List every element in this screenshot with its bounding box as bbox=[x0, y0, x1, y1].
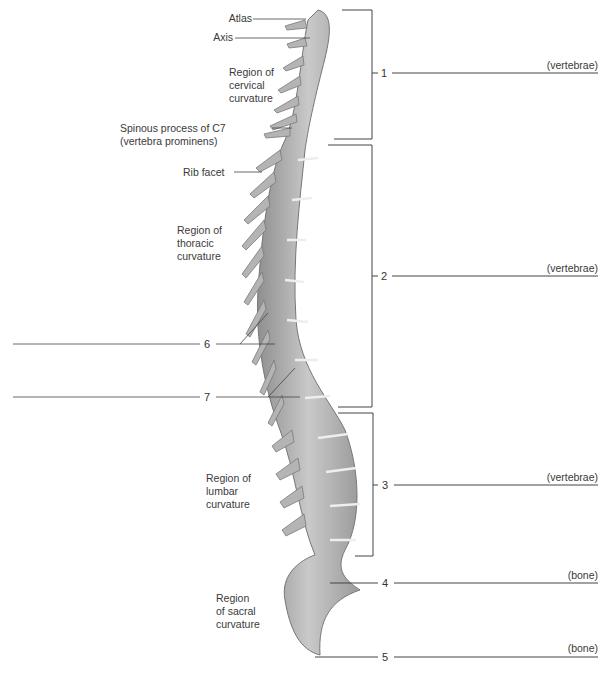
blank-hint-5: (bone) bbox=[500, 642, 598, 654]
label-c7-spinous-process: Spinous process of C7 (vertebra prominen… bbox=[120, 122, 226, 148]
label-cervical-region: Region of cervical curvature bbox=[229, 66, 274, 105]
blank-hint-2: (vertebrae) bbox=[500, 262, 598, 274]
label-axis: Axis bbox=[200, 31, 233, 44]
blank-hint-1: (vertebrae) bbox=[500, 59, 598, 71]
label-sacral-region: Region of sacral curvature bbox=[216, 592, 260, 631]
blank-number-6: 6 bbox=[201, 338, 213, 350]
blank-number-4: 4 bbox=[379, 577, 391, 589]
blank-hint-4: (bone) bbox=[500, 569, 598, 581]
blank-number-3: 3 bbox=[379, 479, 391, 491]
label-lumbar-region: Region of lumbar curvature bbox=[206, 472, 251, 511]
label-atlas: Atlas bbox=[200, 12, 252, 25]
blank-number-7: 7 bbox=[201, 391, 213, 403]
label-rib-facet: Rib facet bbox=[183, 166, 224, 179]
label-thoracic-region: Region of thoracic curvature bbox=[177, 224, 222, 263]
blank-number-1: 1 bbox=[378, 67, 390, 79]
blank-number-5: 5 bbox=[379, 651, 391, 663]
blank-hint-3: (vertebrae) bbox=[500, 471, 598, 483]
blank-number-2: 2 bbox=[378, 270, 390, 282]
